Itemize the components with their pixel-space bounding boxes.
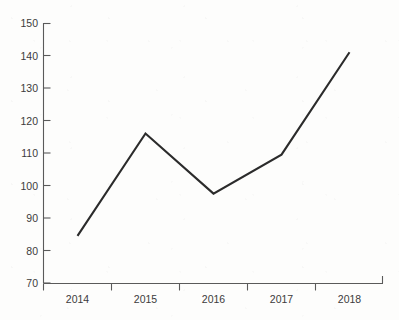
line-chart: 150 140 130 120 110 100 90 80 70 2014 20… — [0, 0, 399, 320]
x-tick-label: 2017 — [270, 293, 294, 305]
y-tick-label: 70 — [26, 277, 38, 289]
x-axis-tick-labels: 2014 2015 2016 2017 2018 — [66, 293, 362, 305]
x-tick-label: 2016 — [202, 293, 226, 305]
chart-plot-area: 150 140 130 120 110 100 90 80 70 2014 20… — [0, 0, 399, 320]
x-tick-label: 2018 — [338, 293, 362, 305]
y-tick-label: 120 — [20, 115, 38, 127]
y-tick-label: 90 — [26, 212, 38, 224]
data-series-line — [78, 52, 350, 236]
y-tick-label: 140 — [20, 50, 38, 62]
y-tick-label: 150 — [20, 17, 38, 29]
y-axis-ticks — [44, 24, 51, 284]
x-tick-label: 2015 — [134, 293, 158, 305]
y-tick-label: 100 — [20, 180, 38, 192]
y-axis-tick-labels: 150 140 130 120 110 100 90 80 70 — [20, 17, 38, 289]
y-tick-label: 130 — [20, 82, 38, 94]
y-tick-label: 80 — [26, 245, 38, 257]
x-tick-label: 2014 — [66, 293, 90, 305]
y-tick-label: 110 — [21, 147, 38, 159]
x-axis-ticks — [44, 284, 316, 291]
